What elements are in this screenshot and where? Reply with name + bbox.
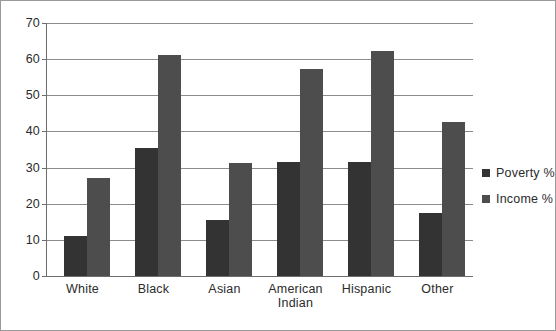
plot-area	[47, 23, 473, 276]
category-label: Other	[402, 282, 473, 296]
chart-legend: Poverty % Income %	[482, 163, 555, 215]
y-tick-label: 40	[26, 124, 40, 138]
legend-item-poverty: Poverty %	[482, 163, 555, 183]
bar-income	[158, 55, 181, 276]
gridline	[47, 59, 473, 60]
bar-income	[371, 51, 394, 276]
bar-group	[348, 23, 394, 276]
y-tick-label: 60	[26, 52, 40, 66]
bar-poverty	[64, 236, 87, 276]
y-tick-label: 0	[33, 269, 40, 283]
y-tick-label: 20	[26, 197, 40, 211]
bar-group	[277, 23, 323, 276]
y-tick-label: 70	[26, 16, 40, 30]
y-tick-label: 10	[26, 233, 40, 247]
bar-poverty	[135, 148, 158, 276]
bar-income	[87, 178, 110, 276]
bar-income	[300, 69, 323, 276]
category-label: Hispanic	[331, 282, 402, 296]
bar-income	[229, 163, 252, 276]
legend-swatch-income-icon	[482, 195, 490, 203]
bar-group	[64, 23, 110, 276]
legend-swatch-poverty-icon	[482, 169, 490, 177]
gridline	[47, 131, 473, 132]
legend-item-income: Income %	[482, 189, 555, 209]
gridline	[47, 240, 473, 241]
bar-income	[442, 122, 465, 276]
category-label: Asian	[189, 282, 260, 296]
gridline	[47, 168, 473, 169]
gridline	[47, 276, 473, 277]
y-tick-label: 50	[26, 88, 40, 102]
gridline	[47, 204, 473, 205]
bar-poverty	[206, 220, 229, 276]
gridline	[47, 23, 473, 24]
category-label: American Indian	[260, 282, 331, 310]
category-label: White	[47, 282, 118, 296]
y-axis-tick-labels: 70 60 50 40 30 20 10 0	[1, 1, 40, 331]
bar-group	[135, 23, 181, 276]
category-label: Black	[118, 282, 189, 296]
bar-poverty	[348, 162, 371, 276]
y-tick-label: 30	[26, 161, 40, 175]
bar-poverty	[277, 162, 300, 276]
bar-poverty	[419, 213, 442, 276]
legend-label-income: Income %	[496, 192, 553, 206]
bar-group	[419, 23, 465, 276]
chart-frame: 70 60 50 40 30 20 10 0 WhiteBlackAsianAm…	[0, 0, 556, 331]
legend-label-poverty: Poverty %	[496, 166, 555, 180]
gridline	[47, 95, 473, 96]
bar-group	[206, 23, 252, 276]
